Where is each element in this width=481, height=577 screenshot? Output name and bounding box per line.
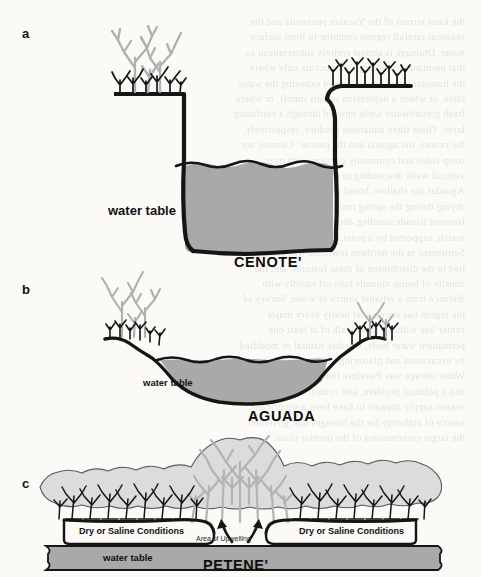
aguada-shrub-cluster-right	[348, 319, 398, 344]
upwelling-arrowhead-left	[217, 519, 227, 529]
cenote-ground-right	[327, 86, 411, 99]
petene-water-table-label: water table	[103, 552, 153, 563]
figure-svg	[0, 0, 481, 577]
panel-a-cenote	[112, 26, 411, 254]
petene-upwelling-label: Area of Upwelling	[196, 535, 251, 542]
upwelling-arrowhead-right	[253, 519, 263, 529]
petene-dry-label-left: Dry or Saline Conditions	[79, 526, 184, 536]
panel-letter-b: b	[22, 282, 30, 297]
aguada-shrub-cluster-left	[106, 320, 165, 345]
panel-letter-c: c	[22, 476, 29, 491]
petene-caption: PETENE'	[203, 557, 269, 573]
petene-dry-label-right: Dry or Saline Conditions	[299, 526, 404, 536]
panel-letter-a: a	[22, 26, 29, 41]
panel-c-petene	[40, 436, 442, 570]
cenote-stalk-cluster-right	[329, 58, 410, 85]
cenote-caption: CENOTE'	[234, 254, 302, 270]
aguada-caption: AGUADA	[248, 408, 315, 424]
figure-page: the karst terrain of the Yucatan peninsu…	[0, 0, 481, 577]
aguada-water-table-label: water table	[143, 377, 193, 388]
cenote-water-table-label: water table	[108, 203, 176, 218]
cenote-water-fill	[185, 162, 333, 252]
